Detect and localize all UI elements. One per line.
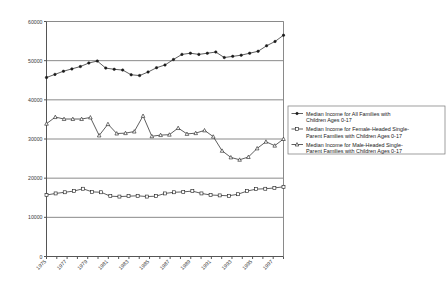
data-point xyxy=(53,115,57,118)
data-point xyxy=(62,70,65,73)
data-point xyxy=(79,65,82,68)
data-point xyxy=(182,190,185,193)
data-point xyxy=(88,62,91,64)
y-tick-labels-group: 0100002000030000400005000060000 xyxy=(28,19,46,260)
data-point xyxy=(206,52,209,55)
data-point xyxy=(121,69,124,72)
x-tick-label: 1997 xyxy=(261,258,273,270)
data-point xyxy=(227,194,230,197)
data-point xyxy=(63,191,66,194)
income-line-chart: 0100002000030000400005000060000 19751977… xyxy=(0,0,448,284)
legend-label-line1: Median Income for All Families with xyxy=(306,111,390,117)
data-point xyxy=(54,73,57,76)
x-tick-label: 1975 xyxy=(35,258,47,270)
series-1 xyxy=(45,34,285,79)
x-tick-label: 1993 xyxy=(220,258,232,270)
x-tick-label: 1979 xyxy=(76,258,88,270)
legend-label-line2: Parent Families with Children Ages 0-17 xyxy=(306,148,402,154)
data-point xyxy=(45,76,48,79)
x-tick-label: 1983 xyxy=(117,258,129,270)
data-point xyxy=(164,64,167,67)
data-point xyxy=(45,194,48,197)
data-point xyxy=(155,66,158,69)
data-point xyxy=(136,194,139,197)
y-tick-label: 10000 xyxy=(28,214,43,220)
x-tick-label: 1981 xyxy=(97,258,109,270)
x-tick-label: 1977 xyxy=(55,258,67,270)
x-tick-label: 1987 xyxy=(158,258,170,270)
data-point xyxy=(176,126,180,129)
data-point xyxy=(164,192,167,195)
data-point xyxy=(211,135,215,138)
data-point xyxy=(209,194,212,197)
data-point xyxy=(191,190,194,193)
data-point xyxy=(265,45,268,48)
chart-legend: Median Income for All Families withChild… xyxy=(288,106,445,154)
series-line-1 xyxy=(47,35,284,77)
data-point xyxy=(130,74,133,77)
legend-entry-2[interactable]: Median Income for Female-Headed Single-P… xyxy=(292,126,410,139)
data-point xyxy=(264,187,267,190)
data-point xyxy=(223,56,226,59)
y-tick-label: 40000 xyxy=(28,97,43,103)
data-point xyxy=(248,52,251,55)
data-point xyxy=(181,53,184,56)
x-tick-label: 1991 xyxy=(200,258,212,270)
data-point xyxy=(54,192,57,195)
legend-label-line2: Parent Families with Children Ages 0-17 xyxy=(306,133,402,139)
data-point xyxy=(109,195,112,198)
data-point xyxy=(100,191,103,194)
data-point xyxy=(282,185,285,188)
data-point xyxy=(141,114,145,117)
chart-canvas: 0100002000030000400005000060000 19751977… xyxy=(0,0,448,284)
data-point xyxy=(72,190,75,193)
data-point xyxy=(200,192,203,195)
data-point xyxy=(172,58,175,61)
y-tick-label: 20000 xyxy=(28,175,43,181)
y-tick-label: 60000 xyxy=(28,19,43,25)
data-point xyxy=(145,195,148,198)
legend-label-line1: Median Income for Male-Headed Single- xyxy=(306,142,403,148)
legend-label-line1: Median Income for Female-Headed Single- xyxy=(306,126,409,132)
legend-entry-3[interactable]: Median Income for Male-Headed Single-Par… xyxy=(292,142,403,155)
data-point xyxy=(118,195,121,198)
data-point xyxy=(257,50,260,53)
legend-marker-open-square xyxy=(296,128,299,131)
y-tick-label: 50000 xyxy=(28,58,43,64)
data-point xyxy=(71,68,74,71)
y-tick-label: 30000 xyxy=(28,136,43,142)
data-point xyxy=(127,195,130,198)
data-point xyxy=(274,40,277,43)
data-point xyxy=(189,52,192,55)
data-point xyxy=(246,190,249,193)
legend-marker-filled-diamond xyxy=(296,112,299,115)
x-tick-label: 1995 xyxy=(241,258,253,270)
data-point xyxy=(138,74,141,77)
data-series-group xyxy=(45,34,286,198)
data-point xyxy=(218,194,221,197)
x-tick-labels-group: 1975197719791981198319851987198919911993… xyxy=(35,258,274,270)
data-point xyxy=(215,51,218,54)
data-point xyxy=(236,193,239,196)
data-point xyxy=(282,34,285,37)
x-tick-label: 1985 xyxy=(138,258,150,270)
data-point xyxy=(264,140,268,143)
data-point xyxy=(240,54,243,57)
series-line-2 xyxy=(47,116,284,160)
data-point xyxy=(91,190,94,193)
data-point xyxy=(255,188,258,191)
data-point xyxy=(154,195,157,198)
data-point xyxy=(147,71,150,74)
data-point xyxy=(132,130,136,133)
data-point xyxy=(106,122,110,125)
data-point xyxy=(96,60,99,63)
data-point xyxy=(173,191,176,194)
data-point xyxy=(231,55,234,58)
legend-label-line2: Children Ages 0-17 xyxy=(306,117,352,123)
data-point xyxy=(89,116,93,119)
data-point xyxy=(113,68,116,71)
data-point xyxy=(273,186,276,189)
data-point xyxy=(198,53,201,56)
series-3 xyxy=(45,185,285,198)
data-point xyxy=(105,67,108,70)
